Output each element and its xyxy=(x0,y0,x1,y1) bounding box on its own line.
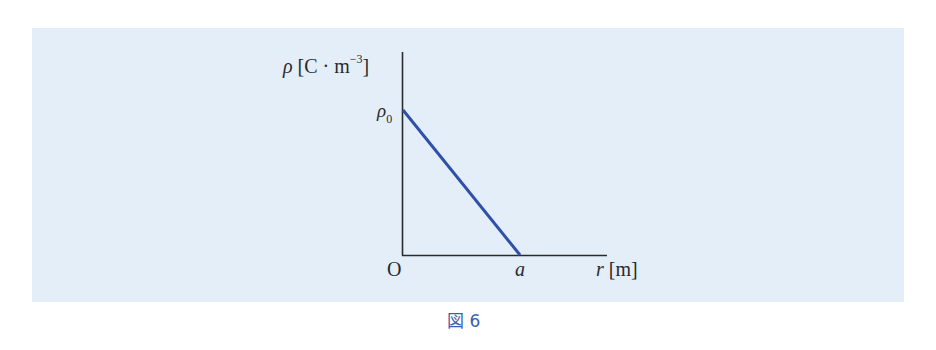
y-axis-symbol: ρ xyxy=(283,55,293,77)
x-axis-unit: [m] xyxy=(609,258,638,280)
x-axis-symbol: r xyxy=(596,258,604,280)
density-curve xyxy=(403,110,520,255)
y-tick-subscript: 0 xyxy=(386,112,392,126)
charge-density-graph xyxy=(0,0,936,350)
x-axis-label: r [m] xyxy=(596,259,638,279)
figure-caption: 図 6 xyxy=(447,307,480,332)
origin-label: O xyxy=(387,259,401,279)
y-tick-symbol: ρ xyxy=(377,100,386,121)
x-tick-a: a xyxy=(515,259,525,279)
y-axis-unit-close: ] xyxy=(363,55,370,77)
y-axis-unit: [C · m xyxy=(298,55,350,77)
y-tick-rho0: ρ0 xyxy=(377,101,392,124)
y-axis-label: ρ [C · m−3] xyxy=(283,55,369,76)
y-axis-unit-exponent: −3 xyxy=(350,52,363,66)
